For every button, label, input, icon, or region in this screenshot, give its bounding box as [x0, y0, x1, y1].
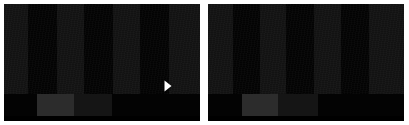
- video-frame-right[interactable]: [208, 4, 404, 94]
- band-floor-left: [4, 116, 200, 121]
- band-floor-right: [208, 116, 404, 121]
- thumbnail-pair-stage: [0, 0, 409, 125]
- play-button-icon[interactable]: [164, 80, 172, 92]
- video-thumbnail-left[interactable]: [4, 4, 200, 121]
- frame-bar: [341, 4, 369, 94]
- frame-bar: [286, 4, 314, 94]
- video-bottom-band-left: [4, 94, 200, 121]
- video-thumbnail-right[interactable]: [208, 4, 404, 121]
- frame-bar: [84, 4, 113, 94]
- frame-bar: [233, 4, 260, 94]
- video-bottom-band-right: [208, 94, 404, 121]
- frame-bar: [28, 4, 57, 94]
